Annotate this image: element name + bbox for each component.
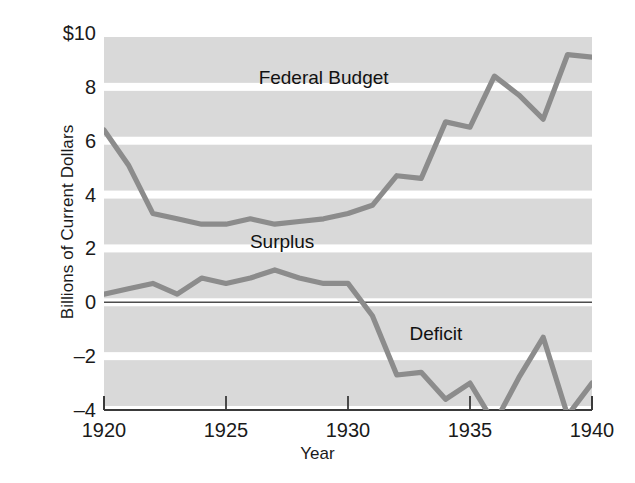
plot-area: Federal Budget Surplus Deficit <box>0 0 635 483</box>
chart-figure: Billions of Current Dollars –4–202468$10… <box>0 0 635 483</box>
annotation-federal-budget: Federal Budget <box>259 67 390 88</box>
x-axis-title: Year <box>0 444 635 464</box>
gridline-band <box>104 199 592 245</box>
annotation-deficit: Deficit <box>409 323 463 344</box>
annotation-surplus: Surplus <box>250 231 314 252</box>
gridline-band <box>104 145 592 191</box>
gridline-band <box>104 306 592 352</box>
